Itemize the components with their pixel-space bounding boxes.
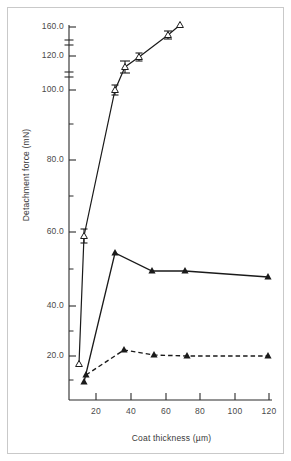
- y-axis-minor-ticks: [69, 124, 74, 380]
- ytick-label-160: 160.0: [12, 21, 64, 31]
- y-axis-title: Detachment force (mN): [21, 105, 31, 245]
- ytick-label-80: 80.0: [12, 154, 64, 164]
- figure-container: 160.0 120.0 100.0 80.0 60.0 40.0 20.0 20…: [0, 0, 291, 461]
- series-open-triangle-error-bars: [81, 31, 173, 243]
- xtick-label-120: 120: [255, 406, 283, 416]
- series-filled-triangle-dashed-markers: [82, 346, 271, 378]
- ytick-label-20: 20.0: [12, 350, 64, 360]
- x-axis-title: Coat thickness (µm): [69, 433, 274, 443]
- ytick-label-100: 100.0: [12, 84, 64, 94]
- series-filled-triangle-solid-line: [84, 253, 268, 382]
- series-filled-triangle-dashed-line: [86, 350, 268, 375]
- xtick-label-60: 60: [152, 406, 180, 416]
- ytick-label-40: 40.0: [12, 300, 64, 310]
- ytick-label-120: 120.0: [12, 50, 64, 60]
- x-axis-ticks: [96, 393, 269, 400]
- ytick-label-60: 60.0: [12, 226, 64, 236]
- y-axis-major-ticks: [69, 27, 76, 356]
- xtick-label-100: 100: [221, 406, 249, 416]
- xtick-label-80: 80: [186, 406, 214, 416]
- series-open-triangle-line: [79, 25, 180, 364]
- xtick-label-40: 40: [117, 406, 145, 416]
- series-filled-triangle-solid-markers: [80, 249, 271, 385]
- xtick-label-20: 20: [82, 406, 110, 416]
